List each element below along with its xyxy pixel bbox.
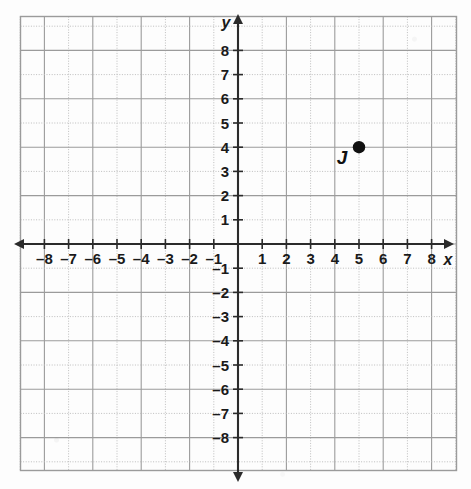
y-tick-label: 5 [221,115,229,132]
x-tick-label: 4 [331,250,340,267]
x-tick-label: –6 [84,250,101,267]
y-axis-name-label: y [221,14,232,31]
y-tick-label: 2 [221,187,229,204]
y-tick-label: –8 [212,429,229,446]
y-tick-label: –4 [212,332,229,349]
y-tick-label: –1 [212,260,229,277]
x-axis-name-label: x [443,251,454,268]
y-tick-label: 7 [221,66,229,83]
y-tick-label: –3 [212,308,229,325]
plotted-point-marker[interactable] [353,141,365,153]
y-tick-label: 6 [221,90,229,107]
x-tick-label: 7 [403,250,411,267]
y-tick-label: 3 [221,163,229,180]
x-tick-label: 2 [282,250,290,267]
y-tick-label: –6 [212,381,229,398]
x-tick-label: 3 [306,250,314,267]
y-tick-label: 8 [221,42,229,59]
y-tick-label: –5 [212,357,229,374]
y-tick-label: 4 [221,139,230,156]
coordinate-plane-svg: –8–7–6–5–4–3–2–11234567887654321–1–2–3–4… [0,0,471,489]
x-tick-label: 1 [258,250,266,267]
x-tick-label: 6 [379,250,387,267]
x-tick-label: –3 [157,250,174,267]
x-tick-label: –2 [181,250,198,267]
x-tick-label: –5 [109,250,126,267]
plotted-point-label: J [337,147,348,168]
x-tick-label: 5 [355,250,363,267]
y-tick-label: 1 [221,211,229,228]
coordinate-plane-figure: –8–7–6–5–4–3–2–11234567887654321–1–2–3–4… [0,0,471,489]
x-tick-label: 8 [427,250,435,267]
x-tick-label: –7 [60,250,77,267]
y-tick-label: –2 [212,284,229,301]
y-tick-label: –7 [212,405,229,422]
x-tick-label: –4 [133,250,150,267]
x-tick-label: –8 [36,250,53,267]
